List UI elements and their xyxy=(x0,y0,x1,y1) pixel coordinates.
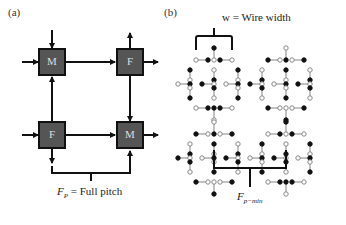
open-node xyxy=(188,170,192,174)
filled-node xyxy=(290,132,294,136)
fpmin-subscript: p−min xyxy=(244,197,263,205)
open-node xyxy=(284,142,288,146)
filled-node xyxy=(260,170,264,174)
open-node xyxy=(194,58,198,62)
filled-node xyxy=(284,58,288,62)
open-node xyxy=(278,106,282,110)
filled-node xyxy=(290,180,294,184)
open-node xyxy=(212,120,216,124)
open-node xyxy=(212,58,216,62)
filled-node xyxy=(308,170,312,174)
open-node xyxy=(236,142,240,146)
filled-node xyxy=(212,170,216,174)
open-node xyxy=(266,180,270,184)
filled-node xyxy=(224,156,228,160)
filled-node xyxy=(284,96,288,100)
filled-node xyxy=(194,180,198,184)
filled-node xyxy=(266,58,270,62)
open-node xyxy=(284,46,288,50)
filled-node xyxy=(260,86,264,90)
filled-node xyxy=(176,156,180,160)
open-node xyxy=(296,156,300,160)
filled-node xyxy=(284,68,288,72)
filled-node xyxy=(212,86,216,90)
open-node xyxy=(212,180,216,184)
open-node xyxy=(218,180,222,184)
open-node xyxy=(212,96,216,100)
filled-node xyxy=(194,132,198,136)
filled-node xyxy=(278,180,282,184)
filled-node xyxy=(212,106,216,110)
open-node xyxy=(176,82,180,86)
open-node xyxy=(230,106,234,110)
open-node xyxy=(236,170,240,174)
open-node xyxy=(284,86,288,90)
open-node xyxy=(308,68,312,72)
open-node xyxy=(284,106,288,110)
open-node xyxy=(284,170,288,174)
open-node xyxy=(194,106,198,110)
filled-node xyxy=(188,160,192,164)
open-node xyxy=(260,68,264,72)
filled-node xyxy=(248,82,252,86)
filled-node xyxy=(284,120,288,124)
open-node xyxy=(212,68,216,72)
fp-min-caption: Fp−min xyxy=(237,190,262,205)
filled-node xyxy=(296,82,300,86)
filled-node xyxy=(212,46,216,50)
filled-node xyxy=(212,192,216,196)
filled-node xyxy=(308,142,312,146)
open-node xyxy=(290,58,294,62)
open-node xyxy=(188,86,192,90)
open-node xyxy=(260,160,264,164)
filled-node xyxy=(308,86,312,90)
filled-node xyxy=(278,132,282,136)
open-node xyxy=(248,156,252,160)
open-node xyxy=(224,82,228,86)
filled-node xyxy=(302,58,306,62)
open-node xyxy=(308,160,312,164)
filled-node xyxy=(230,132,234,136)
filled-node xyxy=(266,106,270,110)
lattice-diagram xyxy=(0,0,346,225)
filled-node xyxy=(218,106,222,110)
filled-node xyxy=(212,142,216,146)
open-node xyxy=(284,132,288,136)
filled-node xyxy=(218,58,222,62)
filled-node xyxy=(188,68,192,72)
filled-node xyxy=(200,82,204,86)
open-node xyxy=(278,58,282,62)
open-node xyxy=(218,132,222,136)
open-node xyxy=(284,192,288,196)
fpmin-symbol: F xyxy=(237,190,244,202)
filled-node xyxy=(260,142,264,146)
filled-node xyxy=(236,96,240,100)
filled-node xyxy=(230,180,234,184)
open-node xyxy=(206,180,210,184)
filled-node xyxy=(236,160,240,164)
filled-node xyxy=(206,106,210,110)
open-node xyxy=(230,58,234,62)
filled-node xyxy=(284,180,288,184)
open-node xyxy=(188,142,192,146)
open-node xyxy=(272,82,276,86)
open-node xyxy=(308,96,312,100)
open-node xyxy=(236,86,240,90)
filled-node xyxy=(212,132,216,136)
open-node xyxy=(200,156,204,160)
open-node xyxy=(260,96,264,100)
filled-node xyxy=(206,58,210,62)
filled-node xyxy=(188,96,192,100)
filled-node xyxy=(236,68,240,72)
open-node xyxy=(266,132,270,136)
open-node xyxy=(302,180,306,184)
filled-node xyxy=(272,156,276,160)
open-node xyxy=(302,132,306,136)
filled-node xyxy=(302,106,306,110)
open-node xyxy=(206,132,210,136)
open-node xyxy=(290,106,294,110)
